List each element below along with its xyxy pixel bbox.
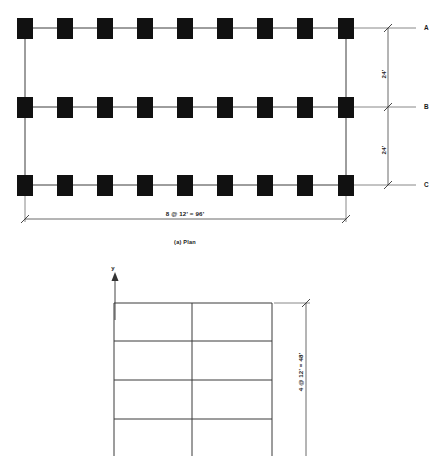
elevation-beams: [114, 303, 272, 419]
y-axis-label: y: [111, 265, 115, 271]
column-a1: [17, 18, 33, 39]
grid-label-a: A: [424, 24, 429, 31]
column-c6: [217, 175, 233, 196]
drawing-canvas: A B C 24' 24' 8 @ 12' = 96': [0, 0, 438, 456]
column-a9: [338, 18, 354, 39]
elevation-view: y 4 @ 12' = 48': [111, 265, 310, 456]
column-c9: [338, 175, 354, 196]
column-c1: [17, 175, 33, 196]
plan-columns-row-b: [17, 97, 354, 118]
column-c7: [257, 175, 273, 196]
column-a2: [57, 18, 73, 39]
elevation-y-axis: y: [111, 265, 118, 320]
plan-view: A B C 24' 24' 8 @ 12' = 96': [17, 18, 429, 245]
y-axis-arrow-icon: [112, 272, 119, 281]
column-a4: [137, 18, 153, 39]
horizontal-dim-label: 8 @ 12' = 96': [166, 210, 205, 217]
column-c5: [177, 175, 193, 196]
column-a3: [97, 18, 113, 39]
vertical-dim-label-bottom: 24': [380, 145, 387, 154]
vertical-dim-label-top: 24': [380, 69, 387, 78]
plan-columns-row-c: [17, 175, 354, 196]
plan-vertical-dimension: 24' 24': [380, 24, 392, 189]
column-a7: [257, 18, 273, 39]
column-c4: [137, 175, 153, 196]
column-b5: [177, 97, 193, 118]
column-a6: [217, 18, 233, 39]
column-c2: [57, 175, 73, 196]
grid-label-b: B: [424, 103, 429, 110]
plan-caption: (a) Plan: [174, 239, 196, 245]
column-b9: [338, 97, 354, 118]
column-b7: [257, 97, 273, 118]
column-b1: [17, 97, 33, 118]
column-b6: [217, 97, 233, 118]
column-b8: [297, 97, 313, 118]
column-c3: [97, 175, 113, 196]
elevation-vertical-dimension: 4 @ 12' = 48': [274, 299, 310, 456]
elevation-dim-label: 4 @ 12' = 48': [297, 352, 304, 391]
column-b3: [97, 97, 113, 118]
column-a5: [177, 18, 193, 39]
plan-horizontal-dimension: 8 @ 12' = 96': [21, 196, 350, 223]
column-b2: [57, 97, 73, 118]
column-c8: [297, 175, 313, 196]
plan-grid-leaders: [354, 28, 416, 185]
plan-columns-row-a: [17, 18, 354, 39]
structural-drawing-figure: A B C 24' 24' 8 @ 12' = 96': [0, 0, 438, 456]
column-b4: [137, 97, 153, 118]
grid-label-c: C: [424, 181, 429, 188]
column-a8: [297, 18, 313, 39]
